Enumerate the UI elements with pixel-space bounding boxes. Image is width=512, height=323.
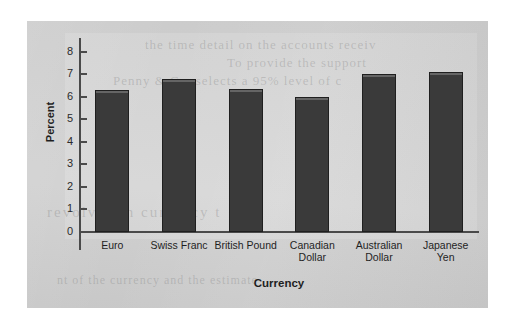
x-axis-title: Currency: [79, 277, 479, 289]
bar-top-highlight: [96, 91, 128, 93]
y-axis-tick: [80, 208, 87, 210]
y-axis-tick: [80, 73, 87, 75]
bar-top-highlight: [163, 80, 195, 82]
bar: [95, 90, 129, 232]
x-axis-category-label: Canadian Dollar: [279, 239, 346, 263]
y-axis-tick-label: 2: [53, 181, 73, 192]
y-axis-tick-label: 3: [53, 158, 73, 169]
bar: [362, 74, 396, 232]
y-axis-tick: [80, 96, 87, 98]
y-axis-tick: [80, 231, 87, 233]
y-axis-tick: [80, 186, 87, 188]
y-axis-tick: [80, 118, 87, 120]
y-axis-tick-label: 4: [53, 136, 73, 147]
y-axis-tick-label: 7: [53, 68, 73, 79]
bar-top-highlight: [296, 98, 328, 100]
x-axis-category-label: British Pound: [212, 239, 279, 251]
bar-top-highlight: [363, 75, 395, 77]
x-axis-category-label: Euro: [79, 239, 146, 251]
y-axis-tick: [80, 51, 87, 53]
bar-chart-figure: the time detail on the accounts receiv T…: [0, 0, 512, 323]
bar-top-highlight: [430, 73, 462, 75]
y-axis-tick-label: 5: [53, 113, 73, 124]
y-axis-tick-label: 6: [53, 91, 73, 102]
y-axis-tick-label: 1: [53, 203, 73, 214]
x-axis-category-label: Japanese Yen: [412, 239, 479, 263]
y-axis-tick-label: 0: [53, 226, 73, 237]
y-axis-title: Percent: [44, 92, 56, 152]
bar-top-highlight: [230, 90, 262, 92]
y-axis-tick: [80, 141, 87, 143]
plot-area: 012345678 EuroSwiss FrancBritish PoundCa…: [27, 21, 488, 308]
bar: [229, 89, 263, 232]
y-axis-line: [79, 38, 81, 250]
y-axis-tick: [80, 163, 87, 165]
x-axis-line: [79, 231, 479, 233]
x-axis-category-label: Swiss Franc: [146, 239, 213, 251]
bar: [162, 79, 196, 232]
chart-panel: the time detail on the accounts receiv T…: [27, 21, 488, 308]
bar: [295, 97, 329, 232]
y-axis-tick-label: 8: [53, 46, 73, 57]
x-axis-category-label: Australian Dollar: [346, 239, 413, 263]
bar: [429, 72, 463, 232]
